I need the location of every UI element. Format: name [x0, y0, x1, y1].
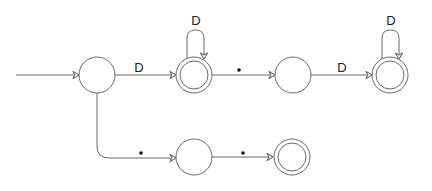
transition-q4-q5	[212, 151, 273, 160]
state-q5-accept	[274, 139, 310, 175]
transition-label: D	[191, 13, 200, 28]
transition-q2-q3: D	[311, 60, 372, 79]
transition-label: D	[134, 60, 143, 75]
transition-q0-q1: D	[115, 60, 176, 79]
state-q4	[176, 139, 212, 175]
transition-q1-q2	[212, 68, 275, 78]
transition-label: D	[386, 13, 395, 28]
transition-q3-loop: D	[382, 13, 403, 60]
dot-symbol	[237, 68, 241, 72]
transition-q1-loop: D	[187, 13, 208, 60]
state-q0	[79, 57, 115, 93]
automaton-diagram: D D D D	[0, 0, 432, 191]
transition-q0-q4	[97, 93, 176, 162]
dot-symbol	[139, 151, 143, 155]
state-q1-accept	[176, 57, 212, 93]
state-q2	[275, 57, 311, 93]
transition-label: D	[337, 60, 346, 75]
state-q3-accept	[372, 57, 408, 93]
start-arrow	[16, 72, 79, 79]
dot-symbol	[241, 151, 245, 155]
